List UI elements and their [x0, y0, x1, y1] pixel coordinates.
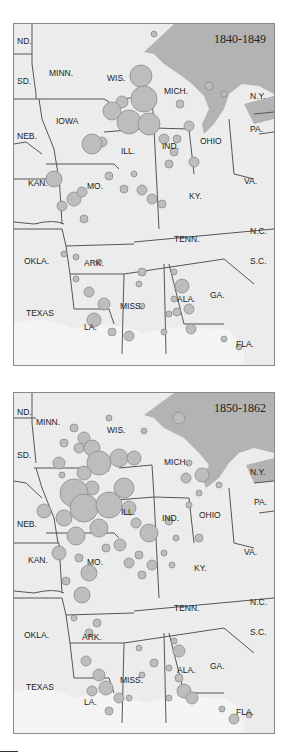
label-neb: NEB.: [17, 131, 37, 141]
label-mich: MICH.: [164, 86, 188, 96]
label-ky: KY.: [194, 563, 207, 573]
label-ill: ILL.: [121, 146, 135, 156]
label-miss: MISS.: [120, 301, 143, 311]
label-ark: ARK.: [82, 632, 102, 642]
label-ga: GA.: [210, 290, 225, 300]
label-ky: KY.: [189, 191, 202, 201]
label-okla: OKLA.: [24, 256, 49, 266]
label-mich: MICH.: [164, 457, 188, 467]
label-nc: N.C.: [250, 226, 267, 236]
label-miss: MISS.: [120, 675, 143, 685]
label-fla: FLA.: [236, 339, 254, 349]
label-wis: WIS.: [107, 425, 125, 435]
label-ala: ALA.: [177, 665, 195, 675]
label-la: LA.: [84, 697, 97, 707]
label-sc: S.C.: [250, 256, 267, 266]
gulf-water: [14, 320, 244, 365]
label-mo: MO.: [87, 181, 103, 191]
label-ala: ALA.: [177, 294, 195, 304]
label-pa: PA.: [250, 124, 263, 134]
map-graphic: ND. SD. MINN. WIS. IOWA NEB. KAN. MO. IL…: [14, 24, 274, 365]
label-kan: KAN.: [28, 555, 48, 565]
period-label: 1840-1849: [214, 32, 266, 47]
label-ga: GA.: [210, 661, 225, 671]
label-va: VA.: [244, 547, 257, 557]
label-ohio: OHIO: [199, 510, 221, 520]
map-1840-1849: ND. SD. MINN. WIS. IOWA NEB. KAN. MO. IL…: [13, 23, 275, 366]
label-ind: IND.: [162, 141, 179, 151]
label-tenn: TENN.: [174, 234, 200, 244]
label-sd: SD.: [17, 450, 31, 460]
label-ohio: OHIO: [200, 136, 222, 146]
label-texas: TEXAS: [26, 682, 54, 692]
label-ark: ARK.: [84, 258, 104, 268]
label-fla: FLA.: [236, 707, 254, 717]
label-iowa: IOWA: [56, 116, 79, 126]
label-kan: KAN.: [28, 178, 48, 188]
label-ny: N.Y.: [250, 91, 265, 101]
label-nc: N.C.: [250, 597, 267, 607]
footnote-rule: [0, 751, 18, 752]
label-nd: ND.: [17, 407, 32, 417]
label-minn: MINN.: [36, 417, 60, 427]
map-1850-1862: ND. SD. MINN. WIS. NEB. KAN. MO. ILL. IN…: [13, 392, 275, 734]
label-la: LA.: [84, 322, 97, 332]
label-nd: ND.: [17, 36, 32, 46]
period-label: 1850-1862: [214, 401, 266, 416]
label-okla: OKLA.: [24, 630, 49, 640]
label-sc: S.C.: [250, 627, 267, 637]
label-ind: IND.: [162, 513, 179, 523]
label-mo: MO.: [87, 557, 103, 567]
label-minn: MINN.: [49, 68, 73, 78]
label-texas: TEXAS: [26, 308, 54, 318]
map-graphic: ND. SD. MINN. WIS. NEB. KAN. MO. ILL. IN…: [14, 393, 274, 733]
label-va: VA.: [244, 176, 257, 186]
label-neb: NEB.: [17, 519, 37, 529]
label-wis: WIS.: [107, 73, 125, 83]
label-tenn: TENN.: [174, 603, 200, 613]
label-sd: SD.: [17, 76, 31, 86]
label-ill: ILL.: [121, 507, 135, 517]
label-ny: N.Y.: [250, 467, 265, 477]
label-pa: PA.: [254, 497, 267, 507]
